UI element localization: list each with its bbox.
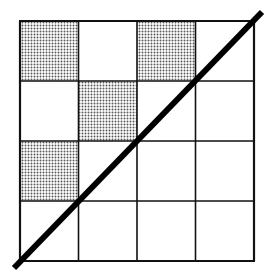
shaded-cell bbox=[79, 81, 138, 141]
shaded-cell bbox=[137, 21, 196, 81]
grid-diagram bbox=[0, 0, 274, 272]
shaded-cell bbox=[20, 141, 79, 201]
shaded-cell bbox=[20, 21, 79, 81]
